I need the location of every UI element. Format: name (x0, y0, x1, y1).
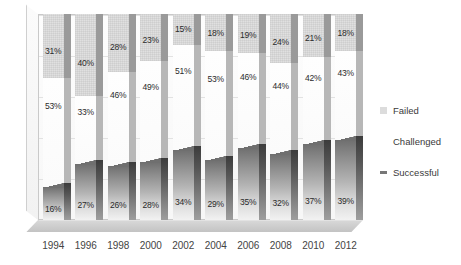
bar-side-successful (291, 150, 298, 220)
plot-area: 31%53%16%40%33%27%28%46%26%23%49%28%15%5… (26, 14, 363, 232)
bar-segment-failed-1996[interactable] (75, 14, 96, 96)
legend-item-challenged[interactable]: Challenged (380, 135, 441, 147)
value-label-failed-1996: 40% (66, 58, 105, 68)
x-axis: 1994199619982000200220042006200820102012 (26, 240, 371, 256)
bar-segment-challenged-1994[interactable] (43, 78, 64, 187)
bar-column (75, 14, 96, 220)
bar-top-face (140, 158, 161, 163)
stacked-bar-chart: 31%53%16%40%33%27%28%46%26%23%49%28%15%5… (0, 0, 461, 265)
x-axis-tick-2006: 2006 (230, 240, 267, 251)
value-label-failed-2012: 18% (326, 28, 365, 38)
value-label-challenged-2000: 49% (131, 82, 170, 92)
bar-top-face (108, 162, 129, 167)
bar-segment-challenged-2006[interactable] (238, 53, 259, 148)
bar-top-face (173, 146, 194, 151)
bar-side-challenged (259, 53, 266, 148)
bar-side-successful (161, 158, 168, 220)
bar-segment-challenged-2002[interactable] (173, 45, 194, 150)
bar-segment-successful-2000[interactable] (140, 162, 161, 220)
value-label-failed-1994: 31% (34, 46, 73, 56)
bar-top-face (43, 183, 64, 188)
bar-column (238, 14, 259, 220)
bar-column (335, 14, 356, 220)
bar-segment-successful-1996[interactable] (75, 164, 96, 220)
bar-side-face (324, 14, 331, 220)
bar-group-2002[interactable] (173, 14, 194, 220)
failed-swatch-icon (380, 107, 387, 114)
bar-group-2010[interactable] (303, 14, 324, 220)
value-label-challenged-1996: 33% (66, 107, 105, 117)
bar-side-face (226, 14, 233, 220)
bar-side-challenged (356, 51, 363, 140)
bar-top-face (303, 140, 324, 145)
bar-group-2012[interactable] (335, 14, 356, 220)
x-axis-tick-1994: 1994 (35, 240, 72, 251)
bar-segment-successful-1998[interactable] (108, 166, 129, 220)
bar-group-1994[interactable] (43, 14, 64, 220)
bar-segment-successful-2006[interactable] (238, 148, 259, 220)
x-axis-tick-2012: 2012 (327, 240, 364, 251)
x-axis-tick-2000: 2000 (132, 240, 169, 251)
bar-column (205, 14, 226, 220)
bar-side-challenged (226, 51, 233, 160)
gridline (39, 220, 362, 221)
x-axis-tick-1996: 1996 (67, 240, 104, 251)
bar-column (173, 14, 194, 220)
chart-left-wall (26, 5, 38, 220)
bar-side-failed (96, 14, 103, 96)
bar-segment-successful-2002[interactable] (173, 150, 194, 220)
bar-side-successful (129, 162, 136, 220)
legend-label-failed: Failed (393, 105, 419, 116)
bar-side-successful (356, 136, 363, 220)
bar-top-face (75, 160, 96, 165)
bar-series-container: 31%53%16%40%33%27%28%46%26%23%49%28%15%5… (38, 14, 363, 220)
x-axis-tick-1998: 1998 (100, 240, 137, 251)
bar-segment-successful-2012[interactable] (335, 140, 356, 220)
bar-side-successful (96, 160, 103, 220)
bar-side-face (64, 14, 71, 220)
bar-top-face (205, 156, 226, 161)
bar-side-successful (226, 156, 233, 220)
bar-segment-challenged-2010[interactable] (303, 57, 324, 144)
bar-side-challenged (194, 45, 201, 150)
bar-segment-challenged-1998[interactable] (108, 72, 129, 167)
legend-item-failed[interactable]: Failed (380, 104, 419, 116)
bar-column (43, 14, 64, 220)
bar-segment-challenged-2012[interactable] (335, 51, 356, 140)
bar-top-face (335, 136, 356, 141)
bar-column (303, 14, 324, 220)
bar-side-challenged (161, 61, 168, 162)
challenged-swatch-icon (380, 138, 387, 145)
legend-item-successful[interactable]: Successful (380, 166, 439, 178)
value-label-failed-2000: 23% (131, 35, 170, 45)
x-axis-tick-2008: 2008 (262, 240, 299, 251)
bar-segment-successful-2008[interactable] (270, 154, 291, 220)
bar-segment-challenged-2008[interactable] (270, 63, 291, 154)
bar-group-2004[interactable] (205, 14, 226, 220)
legend-label-challenged: Challenged (393, 136, 441, 147)
bar-top-face (270, 150, 291, 155)
value-label-successful-2012: 39% (326, 196, 365, 206)
bar-side-successful (324, 140, 331, 220)
bar-side-successful (259, 144, 266, 220)
bar-segment-challenged-2004[interactable] (205, 51, 226, 160)
chart-floor (26, 220, 363, 232)
bar-group-2006[interactable] (238, 14, 259, 220)
bar-side-challenged (64, 78, 71, 187)
bar-side-face (194, 14, 201, 220)
bar-segment-successful-2004[interactable] (205, 160, 226, 220)
x-axis-tick-2002: 2002 (165, 240, 202, 251)
x-axis-tick-2004: 2004 (197, 240, 234, 251)
bar-top-face (238, 144, 259, 149)
bar-segment-challenged-2000[interactable] (140, 61, 161, 162)
legend-label-successful: Successful (393, 167, 439, 178)
x-axis-tick-2010: 2010 (295, 240, 332, 251)
value-label-challenged-2012: 43% (326, 68, 365, 78)
bar-side-face (356, 14, 363, 220)
successful-swatch-icon (380, 171, 387, 174)
bar-group-1996[interactable] (75, 14, 96, 220)
bar-segment-successful-2010[interactable] (303, 144, 324, 220)
